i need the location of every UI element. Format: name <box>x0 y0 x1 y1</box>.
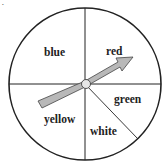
section-label-yellow: yellow <box>44 113 76 126</box>
section-label-green: green <box>114 93 142 106</box>
spinner-diagram: • blue red green white yellow <box>0 0 162 164</box>
section-label-red: red <box>106 45 123 57</box>
section-label-white: white <box>90 125 117 137</box>
section-label-blue: blue <box>44 46 65 58</box>
corner-marker: • <box>2 2 4 7</box>
spinner-hub <box>82 80 91 89</box>
